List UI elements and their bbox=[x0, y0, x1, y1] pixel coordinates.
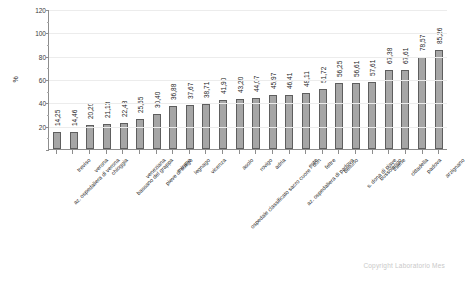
x-axis-label-slot: adria bbox=[264, 155, 281, 265]
x-axis-tickmark-slot bbox=[231, 150, 248, 154]
x-axis-label-slot: bussolengo bbox=[364, 155, 381, 265]
y-axis-tickmark bbox=[46, 103, 49, 104]
x-axis-tickmark-slot bbox=[314, 150, 331, 154]
bar-value-label: 38,71 bbox=[203, 82, 210, 98]
bar-value-label: 25,55 bbox=[137, 97, 144, 113]
y-axis-minor-tickmark bbox=[47, 92, 49, 93]
x-axis-tickmark-slot bbox=[281, 150, 298, 154]
x-axis-label-slot: verona bbox=[81, 155, 98, 265]
bar-value-label: 37,67 bbox=[186, 83, 193, 99]
x-axis-tickmark bbox=[438, 150, 439, 154]
bar-value-label: 85,26 bbox=[435, 27, 442, 43]
x-axis-label-slot: thiene bbox=[381, 155, 398, 265]
x-axis-tickmark bbox=[139, 150, 140, 154]
x-axis-tickmark bbox=[156, 150, 157, 154]
bar bbox=[86, 125, 94, 149]
x-axis-category-labels: az. ospedaliera di veronatrevisoveronach… bbox=[48, 155, 447, 265]
gridline bbox=[49, 103, 447, 104]
x-axis-label-slot: asolo bbox=[231, 155, 248, 265]
y-axis-tick-label: 120 bbox=[20, 7, 46, 14]
x-axis-tickmark-slot bbox=[364, 150, 381, 154]
gridline bbox=[49, 127, 447, 128]
gridline bbox=[49, 80, 447, 81]
bar bbox=[53, 132, 61, 149]
bar-value-label: 21,13 bbox=[104, 102, 111, 118]
x-axis-label-slot: feltre bbox=[314, 155, 331, 265]
bar-value-label: 36,88 bbox=[170, 84, 177, 100]
x-axis-label-slot: arzignano bbox=[430, 155, 447, 265]
x-axis-label-slot: este bbox=[297, 155, 314, 265]
bar-value-label: 30,40 bbox=[153, 91, 160, 107]
x-axis-tickmark-slot bbox=[397, 150, 414, 154]
y-axis-tick-labels: 20406080100120 bbox=[20, 10, 46, 150]
x-axis-label-slot: az. ospedaliera di verona bbox=[48, 155, 65, 265]
x-axis-tickmark-slot bbox=[198, 150, 215, 154]
x-axis-label-slot: cittadella bbox=[397, 155, 414, 265]
x-axis-tickmark-slot bbox=[381, 150, 398, 154]
x-axis-label-slot: bassano del grappa bbox=[115, 155, 132, 265]
bar bbox=[435, 50, 443, 149]
x-axis-tickmark bbox=[239, 150, 240, 154]
y-axis-tickmark bbox=[46, 127, 49, 128]
x-axis-tickmark bbox=[322, 150, 323, 154]
bar-value-label: 44,07 bbox=[253, 75, 260, 91]
x-axis-tickmark bbox=[122, 150, 123, 154]
x-axis-label-slot: chioggia bbox=[98, 155, 115, 265]
y-axis-minor-tickmark bbox=[47, 115, 49, 116]
x-axis-tickmark-slot bbox=[347, 150, 364, 154]
y-axis-tickmark bbox=[46, 57, 49, 58]
x-axis-tickmark-slot bbox=[264, 150, 281, 154]
y-axis-tickmark bbox=[46, 10, 49, 11]
x-axis-tickmark bbox=[205, 150, 206, 154]
y-axis-minor-tickmark bbox=[47, 22, 49, 23]
x-axis-tickmark-slot bbox=[148, 150, 165, 154]
x-axis-tickmark bbox=[405, 150, 406, 154]
x-axis-tickmark bbox=[56, 150, 57, 154]
y-axis-tickmark bbox=[46, 80, 49, 81]
bar bbox=[153, 114, 161, 149]
bar bbox=[335, 83, 343, 149]
bar-value-label: 20,20 bbox=[87, 103, 94, 119]
x-axis-tickmark bbox=[272, 150, 273, 154]
bar-value-label: 14,25 bbox=[54, 110, 61, 126]
x-axis-tickmark-slot bbox=[81, 150, 98, 154]
x-axis-label-slot: belluno bbox=[331, 155, 348, 265]
gridline bbox=[49, 57, 447, 58]
y-axis-tickmark bbox=[46, 33, 49, 34]
gridline bbox=[49, 10, 447, 11]
bar bbox=[136, 119, 144, 149]
x-axis-label-slot: mirano bbox=[164, 155, 181, 265]
bar-value-label: 57,61 bbox=[369, 60, 376, 76]
x-axis-tickmark-slot bbox=[297, 150, 314, 154]
x-axis-tickmark bbox=[255, 150, 256, 154]
x-axis-tickmark bbox=[172, 150, 173, 154]
bar-value-label: 78,57 bbox=[419, 35, 426, 51]
x-axis-tickmark-slot bbox=[98, 150, 115, 154]
x-axis-tickmark bbox=[355, 150, 356, 154]
bar bbox=[236, 99, 244, 149]
bar bbox=[319, 89, 327, 149]
x-axis-tickmark-slot bbox=[331, 150, 348, 154]
x-axis-tickmark-slot bbox=[131, 150, 148, 154]
y-axis-tick-label: 40 bbox=[20, 100, 46, 107]
bar bbox=[219, 100, 227, 149]
x-axis-tickmark bbox=[338, 150, 339, 154]
x-axis-label-slot: padova bbox=[414, 155, 431, 265]
x-axis-label-slot: pieve di soligo bbox=[148, 155, 165, 265]
bar bbox=[368, 82, 376, 149]
bar bbox=[385, 70, 393, 149]
x-axis-tickmark bbox=[189, 150, 190, 154]
x-axis-tickmark bbox=[222, 150, 223, 154]
x-axis-tickmark-slot bbox=[115, 150, 132, 154]
bar-value-label: 45,97 bbox=[269, 73, 276, 89]
x-axis-label-slot: veneziana bbox=[131, 155, 148, 265]
x-axis-tickmark-slot bbox=[214, 150, 231, 154]
bar-value-label: 14,46 bbox=[70, 110, 77, 126]
y-axis-tick-label: 100 bbox=[20, 30, 46, 37]
x-axis-label-slot: legnago bbox=[181, 155, 198, 265]
y-axis-tick-label: 80 bbox=[20, 53, 46, 60]
x-axis-tickmark bbox=[372, 150, 373, 154]
x-axis-tickmark-slot bbox=[430, 150, 447, 154]
x-axis-tickmark bbox=[72, 150, 73, 154]
plot-area: 14,2514,4620,2021,1322,4825,5530,4036,88… bbox=[48, 10, 447, 150]
